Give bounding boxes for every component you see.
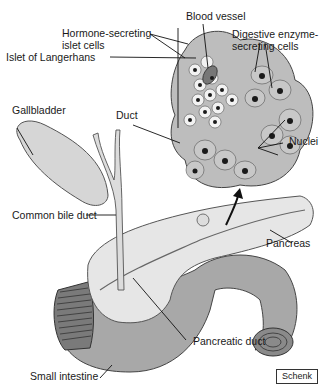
label-common-bile-duct: Common bile duct [12,209,97,221]
label-islet-of-langerhans: Islet of Langerhans [6,51,95,63]
label-digestive-1: Digestive enzyme- [232,28,318,40]
label-pancreatic-duct: Pancreatic duct [193,335,265,347]
artist-credit: Schenk [276,369,318,384]
label-digestive-2: secreting cells [232,40,299,52]
label-gallbladder: Gallbladder [12,104,66,116]
gallbladder-shape [17,121,108,205]
label-nuclei: Nuclei [289,135,318,147]
label-duct: Duct [116,109,138,121]
label-pancreas: Pancreas [266,237,310,249]
label-small-intestine: Small intestine [30,370,98,382]
label-hormone-secreting-2: islet cells [62,39,105,51]
label-hormone-secreting-1: Hormone-secreting [62,27,151,39]
label-blood-vessel: Blood vessel [186,10,246,22]
